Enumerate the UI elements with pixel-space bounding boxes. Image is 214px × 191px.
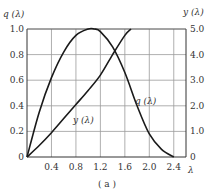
x-tick-label: 2.0 bbox=[142, 162, 157, 172]
y-left-tick-label: 0.4 bbox=[10, 101, 25, 111]
y-right-tick-label: 5.0 bbox=[190, 24, 205, 34]
y-right-tick-label: 3.0 bbox=[190, 75, 205, 85]
y-left-tick-label: 1.0 bbox=[10, 24, 25, 34]
y-left-tick-label: 0.2 bbox=[10, 126, 24, 136]
q-curve-label: q (λ) bbox=[135, 96, 157, 106]
y-left-tick-label: 0.8 bbox=[10, 50, 25, 60]
x-tick-label: 1.6 bbox=[118, 162, 133, 172]
x-tick-label: 0.4 bbox=[44, 162, 59, 172]
y-left-tick-label: 0 bbox=[18, 152, 24, 162]
y-right-tick-label: 4.0 bbox=[190, 50, 205, 60]
y-lambda-curve bbox=[27, 29, 131, 157]
y-curve-label: y (λ) bbox=[72, 115, 94, 125]
y-right-tick-label: 1.0 bbox=[190, 126, 205, 136]
y-right-tick-label: 0 bbox=[190, 152, 196, 162]
x-tick-label: 2.4 bbox=[167, 162, 182, 172]
x-axis-label: λ bbox=[187, 165, 194, 175]
x-tick-label: 1.2 bbox=[93, 162, 107, 172]
x-tick-label: 0.8 bbox=[69, 162, 84, 172]
y-left-tick-label: 0.6 bbox=[10, 75, 25, 85]
y-right-axis-label: y (λ) bbox=[182, 7, 204, 17]
y-left-axis-label: q (λ) bbox=[3, 9, 25, 19]
axes bbox=[27, 29, 186, 157]
y-right-tick-label: 2.0 bbox=[190, 101, 205, 111]
figure-caption: ( a ) bbox=[98, 179, 116, 189]
grid-lines bbox=[27, 29, 186, 157]
chart: q (λ)y (λ)0.40.81.21.62.02.400.20.40.60.… bbox=[0, 0, 214, 191]
